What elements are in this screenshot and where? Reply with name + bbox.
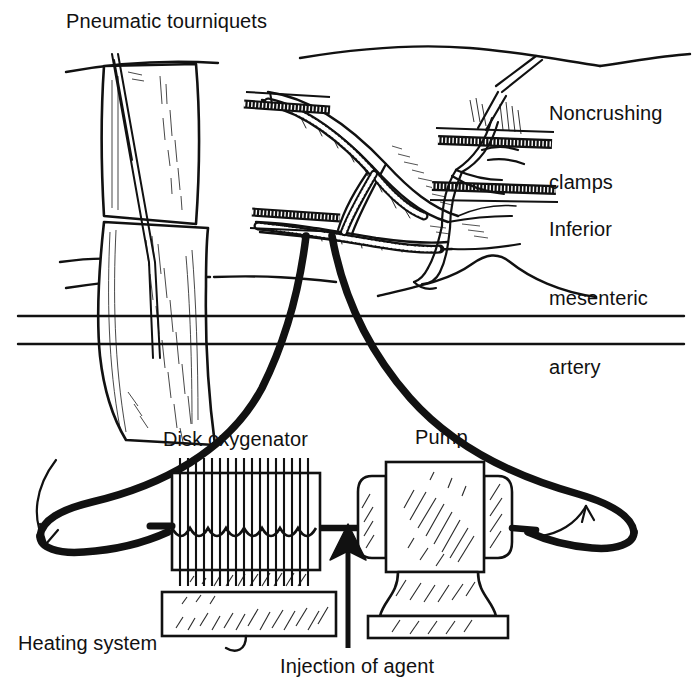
pneumatic-tourniquet-upper — [102, 64, 199, 224]
disk-oxygenator — [150, 458, 392, 586]
pneumatic-tourniquet-lower — [98, 222, 215, 445]
label-pump: Pump — [415, 426, 468, 449]
label-disk-oxygenator: Disk oxygenator — [163, 428, 308, 451]
noncrushing-clamp-right-lower — [430, 186, 558, 202]
label-inferior-mesenteric-artery-line2: mesenteric — [549, 287, 648, 310]
intraluminal-cannulas — [258, 102, 440, 249]
flow-arrow-right — [540, 506, 594, 536]
label-noncrushing-clamps-line1: Noncrushing — [549, 102, 662, 125]
label-inferior-mesenteric-artery-line1: Inferior — [549, 218, 648, 241]
label-injection-of-agent: Injection of agent — [280, 655, 434, 678]
noncrushing-clamp-upper — [244, 92, 330, 110]
clamp-handles — [478, 56, 542, 130]
pump — [358, 462, 536, 638]
label-inferior-mesenteric-artery-line3: artery — [549, 356, 648, 379]
flow-arrow-left — [37, 460, 58, 544]
label-heating-system: Heating system — [18, 632, 157, 655]
label-pneumatic-tourniquets: Pneumatic tourniquets — [66, 10, 267, 33]
label-inferior-mesenteric-artery: Inferior mesenteric artery — [549, 172, 648, 425]
perfusion-diagram-figure: Pneumatic tourniquets Noncrushing clamps… — [0, 0, 699, 689]
